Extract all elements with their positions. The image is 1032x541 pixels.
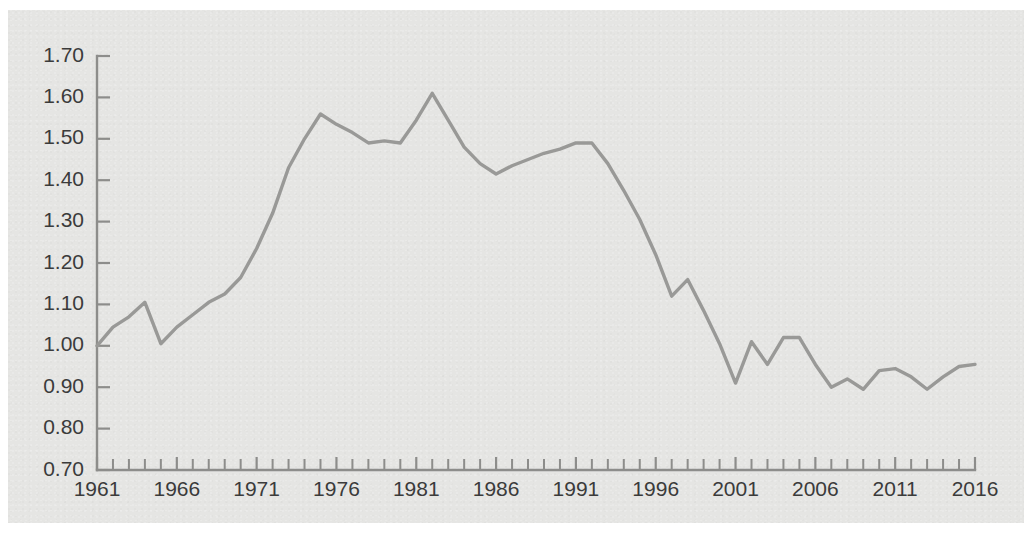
x-tick-label: 2001 (712, 477, 759, 500)
x-tick-label: 1981 (393, 477, 440, 500)
data-series-group (97, 93, 975, 389)
y-tick-label: 1.40 (43, 167, 84, 190)
x-tick-label: 2011 (873, 477, 918, 500)
y-tick-label: 1.60 (43, 84, 84, 107)
x-tick-label: 1991 (553, 477, 600, 500)
x-tick-label: 1971 (233, 477, 280, 500)
line-chart: 0.700.800.901.001.101.201.301.401.501.60… (0, 0, 1032, 541)
x-axis-tick-labels: 1961196619711976198119861991199620012006… (74, 477, 999, 500)
y-tick-label: 1.70 (43, 43, 84, 66)
x-tick-label: 1961 (74, 477, 121, 500)
y-tick-label: 0.80 (43, 415, 84, 438)
x-axis (97, 457, 975, 470)
y-tick-label: 1.00 (43, 332, 84, 355)
x-tick-label: 1976 (313, 477, 360, 500)
y-tick-label: 1.10 (43, 291, 84, 314)
y-axis-tick-labels: 0.700.800.901.001.101.201.301.401.501.60… (43, 43, 84, 480)
y-tick-label: 1.30 (43, 208, 84, 231)
y-tick-label: 0.90 (43, 374, 84, 397)
x-tick-label: 1986 (473, 477, 520, 500)
x-tick-label: 1966 (153, 477, 200, 500)
x-tick-label: 1996 (632, 477, 679, 500)
y-axis (97, 56, 110, 470)
y-tick-label: 1.50 (43, 125, 84, 148)
chart-page: 0.700.800.901.001.101.201.301.401.501.60… (0, 0, 1032, 541)
y-tick-label: 1.20 (43, 250, 84, 273)
x-tick-label: 2016 (952, 477, 999, 500)
y-tick-label: 0.70 (43, 457, 84, 480)
x-tick-label: 2006 (792, 477, 839, 500)
data-line-series-1 (97, 93, 975, 389)
